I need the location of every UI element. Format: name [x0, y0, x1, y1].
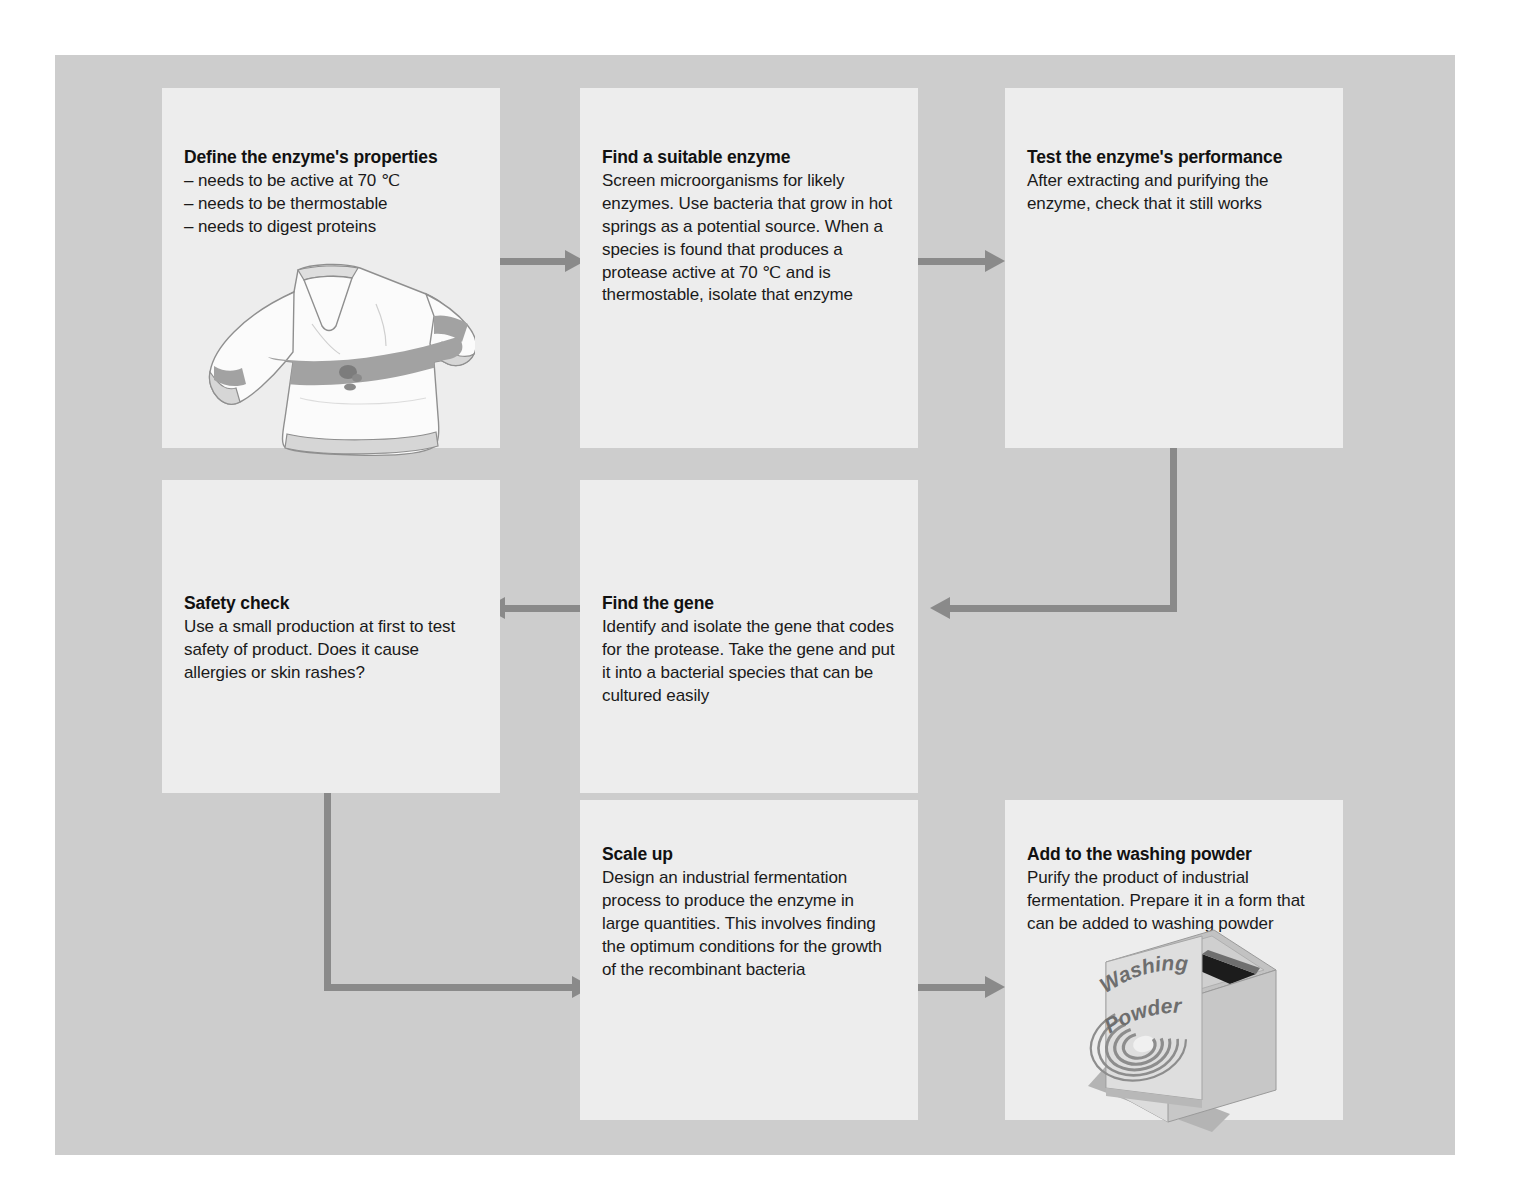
- arrow-safety-to-scaleup-vertical: [324, 793, 331, 991]
- box-find-enzyme-text: Find a suitable enzyme Screen microorgan…: [602, 146, 902, 307]
- flow-box-define-properties: Define the enzyme's properties – needs t…: [162, 88, 500, 448]
- sweater-illustration: [190, 256, 475, 461]
- flow-box-find-enzyme: Find a suitable enzyme Screen microorgan…: [580, 88, 918, 448]
- arrow-test-to-gene-head: [930, 597, 950, 619]
- washing-powder-box-illustration: Washing Powder: [1080, 918, 1310, 1133]
- bullet-item: – needs to be active at 70 ℃: [184, 170, 484, 193]
- flow-box-add-washing-powder: Add to the washing powder Purify the pro…: [1005, 800, 1343, 1120]
- bullet-item: – needs to digest proteins: [184, 216, 484, 239]
- box-find-enzyme-heading: Find a suitable enzyme: [602, 146, 902, 169]
- arrow-safety-to-scaleup-horizontal: [324, 984, 572, 991]
- box-define-properties-text: Define the enzyme's properties – needs t…: [184, 146, 484, 239]
- box-safety-check-heading: Safety check: [184, 592, 484, 615]
- box-test-performance-body: After extracting and purifying the enzym…: [1027, 170, 1327, 216]
- box-define-properties-bullets: – needs to be active at 70 ℃ – needs to …: [184, 170, 484, 239]
- box-scale-up-body: Design an industrial fermentation proces…: [602, 867, 902, 981]
- bullet-item: – needs to be thermostable: [184, 193, 484, 216]
- flow-box-scale-up: Scale up Design an industrial fermentati…: [580, 800, 918, 1120]
- box-safety-check-body: Use a small production at first to test …: [184, 616, 484, 685]
- arrow-test-to-gene-vertical: [1170, 448, 1177, 612]
- arrow-gene-to-safety-line: [505, 605, 590, 612]
- box-scale-up-text: Scale up Design an industrial fermentati…: [602, 843, 902, 981]
- box-test-performance-text: Test the enzyme's performance After extr…: [1027, 146, 1327, 216]
- box-add-washing-powder-heading: Add to the washing powder: [1027, 843, 1327, 866]
- arrow-scaleup-to-powder-head: [985, 976, 1005, 998]
- box-scale-up-heading: Scale up: [602, 843, 902, 866]
- box-test-performance-heading: Test the enzyme's performance: [1027, 146, 1327, 169]
- box-find-gene-body: Identify and isolate the gene that codes…: [602, 616, 902, 707]
- arrow-find-enzyme-to-test-head: [985, 250, 1005, 272]
- box-find-gene-heading: Find the gene: [602, 592, 902, 615]
- box-safety-check-text: Safety check Use a small production at f…: [184, 592, 484, 685]
- arrow-test-to-gene-horizontal: [950, 605, 1177, 612]
- flow-box-test-performance: Test the enzyme's performance After extr…: [1005, 88, 1343, 448]
- box-find-gene-text: Find the gene Identify and isolate the g…: [602, 592, 902, 708]
- flow-box-find-gene: Find the gene Identify and isolate the g…: [580, 480, 918, 793]
- box-define-properties-heading: Define the enzyme's properties: [184, 146, 484, 169]
- flow-box-safety-check: Safety check Use a small production at f…: [162, 480, 500, 793]
- box-find-enzyme-body: Screen microorganisms for likely enzymes…: [602, 170, 902, 307]
- arrow-scaleup-to-powder-line: [915, 984, 985, 991]
- flowchart-panel: Define the enzyme's properties – needs t…: [55, 55, 1455, 1155]
